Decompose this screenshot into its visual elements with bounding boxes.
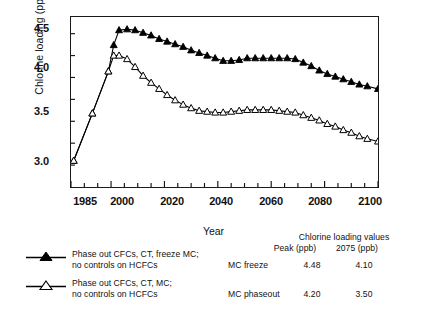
x-tick-label-2040: 2040 xyxy=(198,195,244,207)
values-table-header-2075: 2075 (ppb) xyxy=(326,243,388,253)
open-triangle-marker-icon xyxy=(71,157,77,163)
y-tick-label-4-5: 4.5 xyxy=(15,22,49,34)
data-series-layer xyxy=(71,26,378,164)
y-axis-ticks xyxy=(71,34,75,165)
filled-triangle-marker-icon xyxy=(316,67,323,73)
y-tick-label-4-0: 4.0 xyxy=(15,61,49,73)
values-table-header-row: Peak (ppb) 2075 (ppb) xyxy=(228,243,427,253)
open-triangle-marker-icon xyxy=(26,280,66,291)
values-row-2075: 3.50 xyxy=(338,289,390,299)
y-axis-title: Chlorine loading (ppb) xyxy=(33,0,45,112)
x-tick-label-2080: 2080 xyxy=(297,195,343,207)
values-row-peak: 4.20 xyxy=(286,289,338,299)
values-row-peak: 4.48 xyxy=(286,260,338,270)
filled-triangle-marker-icon xyxy=(124,26,131,32)
x-tick-label-2000: 2000 xyxy=(99,195,145,207)
series-mc-phaseout xyxy=(71,52,378,163)
values-row-scenario: MC phaseout xyxy=(228,289,286,299)
open-triangle-marker-icon xyxy=(89,110,96,116)
filled-triangle-marker-icon xyxy=(26,251,66,262)
x-axis-ticks xyxy=(71,181,378,187)
chlorine-loading-values-table: Chlorine loading values Peak (ppb) 2075 … xyxy=(228,232,427,299)
values-table-row-mc-phaseout: MC phaseout 4.20 3.50 xyxy=(228,289,427,299)
plot-area xyxy=(70,16,379,188)
series-mc-freeze xyxy=(71,26,378,164)
values-table-title: Chlorine loading values xyxy=(264,232,424,242)
x-tick-label-2020: 2020 xyxy=(149,195,195,207)
values-table-header-peak: Peak (ppb) xyxy=(264,243,326,253)
x-tick-label-2060: 2060 xyxy=(248,195,294,207)
plot-svg xyxy=(71,17,378,187)
y-tick-label-3-5: 3.5 xyxy=(15,105,49,117)
x-tick-label-2100: 2100 xyxy=(347,195,393,207)
open-triangle-marker-icon xyxy=(180,101,187,107)
open-triangle-marker-icon xyxy=(105,68,112,74)
y-tick-label-3-0: 3.0 xyxy=(15,155,49,167)
open-triangle-marker-icon xyxy=(156,85,163,91)
filled-triangle-marker-icon xyxy=(110,41,117,47)
values-row-scenario: MC freeze xyxy=(228,260,286,270)
values-table-row-mc-freeze: MC freeze 4.48 4.10 xyxy=(228,260,427,270)
open-triangle-marker-icon xyxy=(172,97,179,103)
figure: Chlorine loading (ppb) 4.5 4.0 3.5 3.0 1… xyxy=(0,0,427,330)
values-row-2075: 4.10 xyxy=(338,260,390,270)
open-triangle-marker-icon xyxy=(164,91,171,97)
values-table-header-spacer xyxy=(228,243,264,253)
